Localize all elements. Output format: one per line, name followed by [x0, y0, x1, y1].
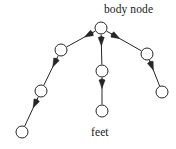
edge-root-to-left-1-arrowhead — [84, 30, 93, 37]
left-node-1 — [55, 44, 67, 56]
body-node-label: body node — [104, 3, 153, 16]
middle-node-2 — [96, 105, 108, 117]
edge-root-to-left-1 — [67, 30, 96, 47]
edge-root-to-middle-1 — [98, 34, 104, 64]
tree-diagram-canvas: body node feet — [0, 0, 176, 149]
feet-label: feet — [91, 126, 109, 139]
body-node — [95, 22, 107, 34]
node-layer — [16, 22, 168, 138]
left-node-3 — [16, 126, 28, 138]
edge-middle-1-to-middle-2 — [99, 78, 105, 105]
tree-graph-svg — [0, 0, 176, 149]
left-node-2 — [35, 85, 47, 97]
edge-root-to-right-1 — [107, 31, 142, 51]
edge-left-1-to-left-2-arrowhead — [53, 58, 60, 67]
edge-left-2-to-left-3-arrowhead — [33, 99, 39, 108]
edge-root-to-middle-1-arrowhead — [98, 36, 104, 46]
edge-root-to-right-1-arrowhead — [111, 32, 120, 39]
edge-left-1-to-left-2 — [44, 56, 59, 85]
edge-layer — [25, 30, 160, 126]
right-node-1 — [141, 48, 153, 60]
middle-node-1 — [96, 65, 108, 77]
edge-middle-1-to-middle-2-arrowhead — [99, 79, 105, 89]
edge-right-1-to-right-2-arrowhead — [147, 61, 153, 70]
edge-right-1-to-right-2 — [147, 60, 159, 86]
edge-left-2-to-left-3 — [25, 97, 40, 126]
right-node-2 — [156, 86, 168, 98]
